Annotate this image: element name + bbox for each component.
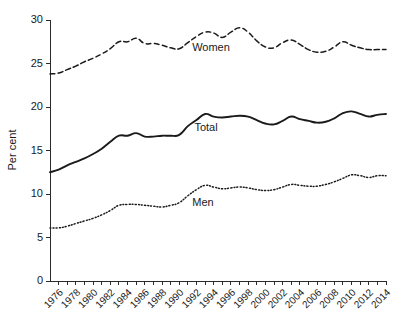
y-tick-label: 5 [37,231,43,243]
y-tick-label: 15 [31,144,43,156]
y-tick-label: 0 [37,274,43,286]
chart-figure: 051015202530 197619781980198219841986198… [0,0,394,330]
y-tick-label: 10 [31,187,43,199]
series-label-total: Total [194,121,217,133]
y-axis-title: Per cent [6,130,18,171]
series-label-men: Men [192,196,213,208]
caption-strip [0,316,394,330]
y-tick-label: 20 [31,100,43,112]
y-tick-label: 25 [31,57,43,69]
series-label-women: Women [192,41,230,53]
y-tick-label: 30 [31,13,43,25]
line-chart: 051015202530 197619781980198219841986198… [0,0,394,330]
